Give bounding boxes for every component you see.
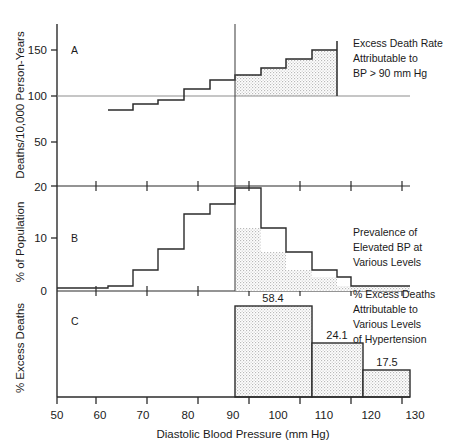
panel-b: 20 10 0 % of Population B Prevalence of … — [14, 181, 422, 297]
panel-a-annotation-line-1: Excess Death Rate — [353, 37, 443, 49]
x-axis-title: Diastolic Blood Pressure (mm Hg) — [156, 428, 329, 440]
xtick-label-60: 60 — [94, 409, 107, 421]
panel-b-y-axis-title: % of Population — [14, 202, 26, 283]
xtick-label-50: 50 — [51, 409, 64, 421]
panel-a-y-axis-title: Deaths/10,000 Person-Years — [14, 31, 26, 179]
panel-b-ytick-label-20: 20 — [34, 181, 47, 193]
panel-a-ytick-label-100: 100 — [28, 90, 47, 102]
panel-c-bar-label-58-4: 58.4 — [262, 292, 283, 304]
panel-b-annotation-line-2: Elevated BP at — [353, 241, 422, 253]
xtick-label-120: 120 — [361, 409, 380, 421]
panel-a-ytick-label-50: 50 — [34, 136, 47, 148]
panel-c-annotation-line-2: Attributable to — [353, 303, 418, 315]
panel-b-histogram-outline — [57, 188, 410, 288]
panel-c-letter: C — [71, 315, 79, 327]
xtick-label-130: 130 — [405, 409, 424, 421]
panel-a-annotation-line-2: Attributable to — [353, 52, 418, 64]
panel-a-ytick-label-150: 150 — [28, 44, 47, 56]
panel-b-annotation-line-3: Various Levels — [353, 256, 421, 268]
xtick-label-90: 90 — [227, 409, 240, 421]
panel-b-annotation-line-1: Prevalence of — [353, 226, 417, 238]
shared-x-axis: 50 60 70 80 90 100 110 120 130 Diastolic… — [51, 397, 425, 440]
panel-c-bar-label-24-1: 24.1 — [326, 329, 347, 341]
panel-c-bar-58-4 — [235, 306, 312, 397]
panel-c-bar-17-5 — [363, 370, 410, 397]
panel-b-ytick-label-0: 0 — [41, 285, 47, 297]
panel-a-letter: A — [71, 44, 78, 56]
panel-c-annotation-line-1: % Excess Deaths — [353, 288, 435, 300]
panel-a: 150 100 50 Deaths/10,000 Person-Years A … — [14, 24, 443, 186]
panel-c: % Excess Deaths C 58.4 24.1 17.5 % Exces… — [14, 288, 435, 397]
panel-b-ytick-label-10: 10 — [34, 232, 47, 244]
panel-c-y-axis-title: % Excess Deaths — [14, 303, 26, 393]
panel-c-annotation-line-3: Various Levels — [353, 318, 421, 330]
panel-c-bar-24-1 — [312, 343, 363, 397]
panel-a-annotation-line-3: BP > 90 mm Hg — [353, 67, 427, 79]
xtick-label-110: 110 — [315, 409, 333, 421]
panel-c-annotation-line-4: of Hypertension — [353, 333, 427, 345]
xtick-label-100: 100 — [268, 409, 287, 421]
xtick-label-70: 70 — [137, 409, 150, 421]
xtick-label-80: 80 — [182, 409, 195, 421]
chart-svg: 150 100 50 Deaths/10,000 Person-Years A … — [0, 0, 461, 444]
panel-c-bar-label-17-5: 17.5 — [376, 356, 397, 368]
figure-canvas: 150 100 50 Deaths/10,000 Person-Years A … — [0, 0, 461, 444]
panel-b-letter: B — [71, 232, 78, 244]
